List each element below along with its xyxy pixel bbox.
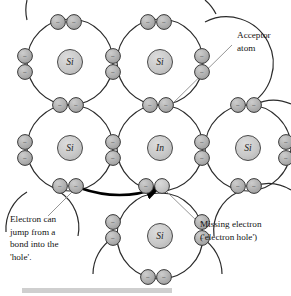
electron-e-top-left-b: −	[67, 15, 82, 30]
electron-e-far-right-b: −	[279, 151, 291, 166]
atom-si-mid-left: Si	[58, 136, 83, 161]
electron-e-mid-upper-b: −	[106, 65, 121, 80]
electron-charge-symbol: −	[56, 19, 60, 27]
electron-e-top-mid-b: −	[157, 15, 172, 30]
atom-label-si-bottom-mid: Si	[156, 231, 164, 241]
electron-e-mid-upper-a: −	[106, 49, 121, 64]
electron-jump-label-line-3: 'hole'.	[10, 252, 31, 262]
electron-charge-symbol: −	[111, 53, 115, 61]
electron-charge-symbol: −	[144, 183, 148, 191]
electron-e-bottom-a: −	[141, 270, 156, 285]
electron-charge-symbol: −	[72, 19, 76, 27]
electron-e-far-right-a: −	[279, 135, 291, 150]
electron-hole-e-row2-m-b	[155, 179, 170, 194]
electron-charge-symbol: −	[58, 183, 62, 191]
electron-e-right-upper-b: −	[195, 65, 210, 80]
electron-e-mid-right-a: −	[195, 135, 210, 150]
lattice-svg: SiSiSiInSiSi −−−−−−−−−−−−−−−−−−−−−−−−−−−…	[0, 0, 291, 296]
atom-label-in-center: In	[155, 143, 164, 153]
electron-e-far-left-a: −	[18, 135, 33, 150]
atom-label-si-top-left: Si	[66, 57, 74, 67]
atom-in-center: In	[148, 136, 173, 161]
atom-si-top-left: Si	[58, 50, 83, 75]
electron-jump-label-line-1: jump from a	[9, 227, 55, 237]
atom-label-si-mid-right: Si	[244, 143, 252, 153]
atom-label-si-top-mid: Si	[156, 57, 164, 67]
electron-e-right-upper-a: −	[195, 49, 210, 64]
electron-e-row1-m-a: −	[143, 98, 158, 113]
electron-charge-symbol: −	[252, 183, 256, 191]
electron-e-row1-m-b: −	[159, 98, 174, 113]
semiconductor-diagram: SiSiSiInSiSi −−−−−−−−−−−−−−−−−−−−−−−−−−−…	[0, 0, 291, 296]
electron-e-top-left-a: −	[51, 15, 66, 30]
electron-e-bot-left-b: −	[106, 231, 121, 246]
electron-charge-symbol: −	[111, 155, 115, 163]
electron-charge-symbol: −	[200, 139, 204, 147]
electron-e-row1-r-a: −	[231, 98, 246, 113]
electron-charge-symbol: −	[284, 155, 288, 163]
electron-charge-symbol: −	[162, 274, 166, 282]
electron-e-row1-l-b: −	[69, 98, 84, 113]
atom-si-mid-right: Si	[236, 136, 261, 161]
electron-e-mid-left-a: −	[106, 135, 121, 150]
electron-charge-symbol: −	[146, 274, 150, 282]
electron-charge-symbol: −	[200, 155, 204, 163]
electron-charge-symbol: −	[284, 139, 288, 147]
electron-charge-symbol: −	[252, 102, 256, 110]
electron-charge-symbol: −	[111, 219, 115, 227]
atom-si-top-mid: Si	[148, 50, 173, 75]
electron-e-row1-r-b: −	[247, 98, 262, 113]
electron-charge-symbol: −	[236, 183, 240, 191]
electron-e-top-mid-a: −	[141, 15, 156, 30]
electron-jump-label-line-0: Electron can	[10, 214, 57, 224]
electron-e-mid-right-b: −	[195, 151, 210, 166]
electron-charge-symbol: −	[236, 102, 240, 110]
electron-charge-symbol: −	[162, 19, 166, 27]
electron-charge-symbol: −	[23, 155, 27, 163]
electron-charge-symbol: −	[74, 102, 78, 110]
bottom-rule	[22, 288, 172, 293]
electron-e-left-upper-a: −	[18, 49, 33, 64]
electron-e-far-left-b: −	[18, 151, 33, 166]
electron-e-left-upper-b: −	[18, 65, 33, 80]
electron-charge-symbol: −	[148, 102, 152, 110]
electron-charge-symbol: −	[111, 69, 115, 77]
electron-disc	[155, 179, 170, 194]
electron-e-bot-left-a: −	[106, 215, 121, 230]
electron-e-mid-left-b: −	[106, 151, 121, 166]
electron-charge-symbol: −	[58, 102, 62, 110]
electron-e-bottom-b: −	[157, 270, 172, 285]
electron-jump-label-line-2: bond into the	[10, 239, 59, 249]
electron-charge-symbol: −	[74, 183, 78, 191]
electron-charge-symbol: −	[23, 53, 27, 61]
electron-charge-symbol: −	[200, 53, 204, 61]
electron-charge-symbol: −	[200, 69, 204, 77]
electron-charge-symbol: −	[111, 139, 115, 147]
electron-charge-symbol: −	[111, 235, 115, 243]
electron-e-row2-m-a: −	[139, 179, 154, 194]
electron-e-row2-l-b: −	[69, 179, 84, 194]
electron-charge-symbol: −	[146, 19, 150, 27]
acceptor-atom-label-line-0: Acceptor	[237, 30, 271, 40]
atom-si-bottom-mid: Si	[148, 224, 173, 249]
missing-electron-label-line-0: Missing electron	[200, 219, 262, 229]
electron-e-row2-r-a: −	[231, 179, 246, 194]
electron-e-row2-r-b: −	[247, 179, 262, 194]
electron-charge-symbol: −	[164, 102, 168, 110]
atom-label-si-mid-left: Si	[66, 143, 74, 153]
electron-e-row1-l-a: −	[53, 98, 68, 113]
acceptor-atom-label-line-1: atom	[237, 43, 255, 53]
electron-e-row2-l-a: −	[53, 179, 68, 194]
electron-charge-symbol: −	[23, 69, 27, 77]
missing-electron-label-line-1: ('electron hole')	[200, 232, 257, 242]
electron-charge-symbol: −	[23, 139, 27, 147]
